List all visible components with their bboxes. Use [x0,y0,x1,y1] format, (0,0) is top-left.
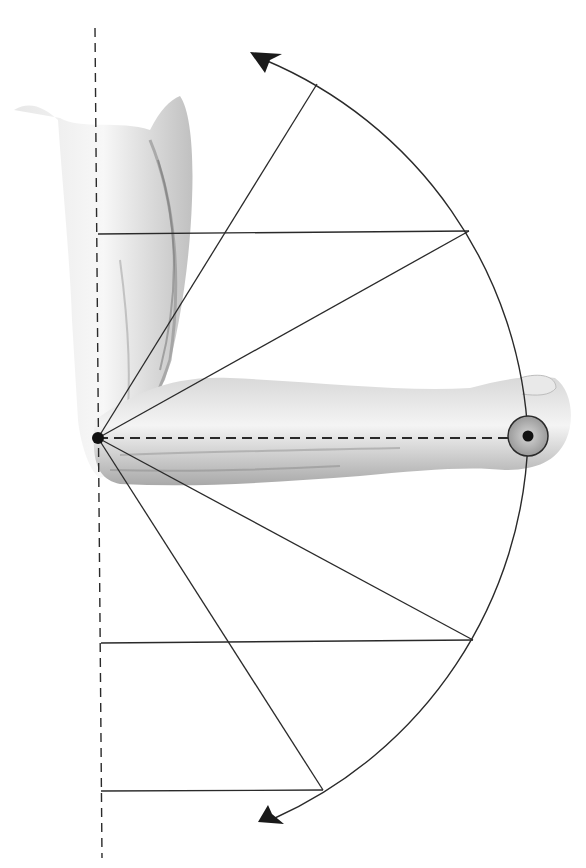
elbow-pivot-point [92,432,104,444]
upper-arrowhead-icon [250,52,282,73]
lower-arrowhead-icon [258,805,284,824]
elbow-range-of-motion-diagram [0,0,586,868]
fist-target-marker [508,416,548,456]
forearm-illustration [94,375,571,485]
